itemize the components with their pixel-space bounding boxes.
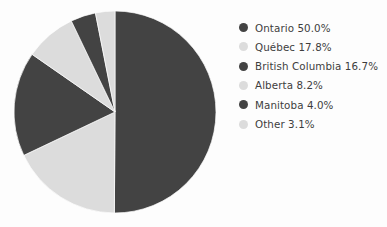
legend-swatch-icon-ontario (239, 23, 248, 32)
legend-swatch-icon-alberta (239, 81, 248, 90)
pie-chart-figure: Ontario 50.0% Québec 17.8% British Colum… (0, 0, 387, 227)
pie-chart-svg (14, 11, 216, 213)
legend-swatch-icon-manitoba (239, 100, 248, 109)
legend-label-alberta: Alberta 8.2% (255, 80, 323, 90)
legend-item-alberta[interactable]: Alberta 8.2% (239, 76, 385, 95)
legend-item-british-columbia[interactable]: British Columbia 16.7% (239, 57, 385, 76)
legend-item-quebec[interactable]: Québec 17.8% (239, 37, 385, 56)
legend-label-ontario: Ontario 50.0% (255, 23, 331, 33)
legend-swatch-icon-quebec (239, 42, 248, 51)
pie-chart-plot-area (14, 11, 216, 213)
legend-item-other[interactable]: Other 3.1% (239, 114, 385, 133)
legend-label-british-columbia: British Columbia 16.7% (255, 61, 378, 71)
legend-swatch-icon-other (239, 120, 248, 129)
legend-label-manitoba: Manitoba 4.0% (255, 100, 334, 110)
legend-item-manitoba[interactable]: Manitoba 4.0% (239, 95, 385, 114)
legend-label-other: Other 3.1% (255, 119, 315, 129)
pie-slice-ontario[interactable] (114, 11, 216, 213)
legend-swatch-icon-british-columbia (239, 62, 248, 71)
legend-item-ontario[interactable]: Ontario 50.0% (239, 18, 385, 37)
chart-legend: Ontario 50.0% Québec 17.8% British Colum… (239, 18, 385, 134)
legend-label-quebec: Québec 17.8% (255, 42, 332, 52)
pie-slice-group (14, 11, 216, 213)
